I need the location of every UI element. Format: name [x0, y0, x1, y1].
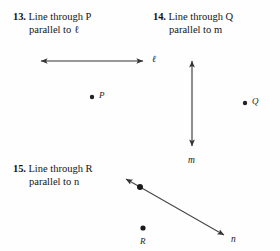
label-point-q: Q: [252, 96, 259, 106]
figure-point-q: [243, 101, 247, 105]
label-line-l: ℓ: [152, 54, 156, 64]
figure-point-r: [140, 225, 145, 230]
geometry-figures: [0, 0, 280, 251]
textbook-exercise-page: 13. Line through P parallel to ℓ 14. Lin…: [0, 0, 280, 251]
label-line-m: m: [188, 155, 195, 165]
figure-point-p: [90, 95, 94, 99]
label-point-r: R: [140, 236, 146, 246]
label-line-n: n: [231, 234, 236, 244]
figure-point-on-line-n: [137, 184, 143, 190]
label-point-p: P: [99, 90, 105, 100]
